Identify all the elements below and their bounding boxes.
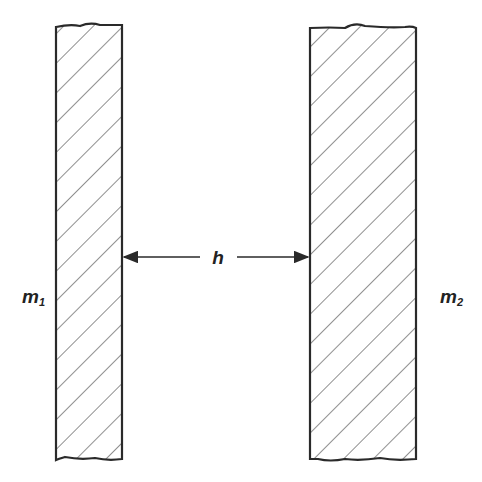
slab-m2-label-base: m: [440, 286, 457, 307]
slab-m1: [56, 24, 122, 460]
slab-m2-label: m2: [440, 286, 463, 308]
slab-m2-body: [310, 24, 416, 460]
gap-label: h: [212, 247, 224, 268]
slab-m1-label: m1: [22, 286, 45, 308]
slab-m1-label-base: m: [22, 286, 39, 307]
slab-m2-label-sub: 2: [456, 296, 463, 308]
slab-m1-label-sub: 1: [39, 296, 45, 308]
slab-gap-diagram: h m1 m2: [0, 0, 482, 482]
gap-dimension: h: [124, 247, 308, 268]
slab-m1-body: [56, 24, 122, 460]
slab-m2: [310, 24, 416, 460]
